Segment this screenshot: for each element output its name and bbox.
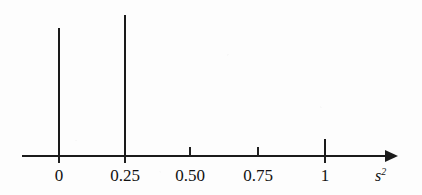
x-tick-label-050: 0.50 <box>175 167 205 184</box>
x-tick-label-1: 1 <box>321 167 330 184</box>
spike-plot-figure: 0 0.25 0.50 0.75 1 s2 <box>0 0 422 195</box>
x-tick-label-0: 0 <box>55 167 64 184</box>
x-axis-arrow-icon <box>385 150 398 162</box>
spike-at-1 <box>324 139 326 157</box>
x-tick-label-075: 0.75 <box>243 167 273 184</box>
x-axis-title: s2 <box>375 168 386 184</box>
x-tick-050 <box>189 147 191 157</box>
x-tick-075 <box>257 147 259 157</box>
x-tick-label-025: 0.25 <box>110 167 140 184</box>
x-axis-line <box>22 155 388 157</box>
spike-at-025 <box>124 15 126 157</box>
x-axis-title-exponent: 2 <box>381 166 386 177</box>
spike-at-0 <box>58 28 60 157</box>
